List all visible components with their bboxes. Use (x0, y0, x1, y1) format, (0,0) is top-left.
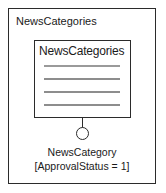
caption-block: NewsCategory [ApprovalStatus = 1] (9, 145, 155, 173)
list-row-placeholder (44, 65, 120, 67)
frame-label: NewsCategories (16, 14, 97, 28)
list-row-placeholder (44, 78, 120, 80)
circle-port-icon[interactable] (76, 127, 89, 140)
list-box-title: NewsCategories (39, 44, 128, 59)
list-row-placeholder (44, 91, 120, 93)
data-source-name: NewsCategory (9, 145, 155, 159)
diagram-canvas: NewsCategories NewsCategories NewsCatego… (0, 0, 166, 193)
list-row-placeholder (44, 104, 120, 106)
news-categories-list-box[interactable]: NewsCategories (34, 40, 131, 118)
data-source-filter: [ApprovalStatus = 1] (9, 159, 155, 173)
